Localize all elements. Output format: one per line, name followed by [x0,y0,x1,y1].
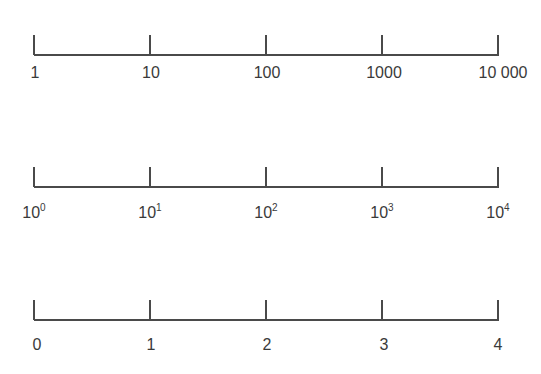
tick-label: 3 [380,336,389,354]
tick [149,167,151,187]
tick [497,167,499,187]
tick [33,35,35,55]
tick [381,35,383,55]
tick-label: 104 [486,204,509,222]
tick-label: 2 [263,336,272,354]
tick [497,300,499,320]
tick-label: 4 [494,336,503,354]
tick [33,300,35,320]
tick [265,35,267,55]
tick-label: 1 [31,64,40,82]
tick-label: 10 [142,64,160,82]
tick-label: 1000 [366,64,402,82]
scale-powers: 100 101 102 103 104 [0,167,541,227]
tick-label: 101 [138,204,161,222]
tick-label: 0 [33,336,42,354]
scale-numbers: 1 10 100 1000 10 000 [0,35,541,95]
tick [149,300,151,320]
tick-label: 100 [22,204,45,222]
tick-label: 100 [254,64,281,82]
scale-exponents: 0 1 2 3 4 [0,300,541,360]
tick [149,35,151,55]
tick [33,167,35,187]
tick-label: 102 [254,204,277,222]
tick-label: 103 [370,204,393,222]
tick [265,167,267,187]
tick [381,167,383,187]
tick-label: 1 [147,336,156,354]
tick [265,300,267,320]
tick [497,35,499,55]
tick [381,300,383,320]
tick-label: 10 000 [479,64,528,82]
